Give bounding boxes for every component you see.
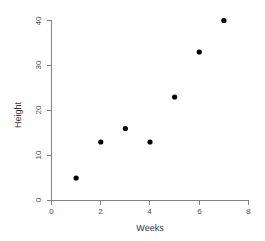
- x-axis-title: Weeks: [136, 223, 164, 233]
- data-point: [74, 175, 79, 180]
- data-point: [98, 139, 103, 144]
- y-tick-label-0: 0: [34, 197, 43, 202]
- x-tick-label-8: 8: [246, 207, 251, 216]
- data-point: [172, 94, 177, 99]
- x-tick-label-6: 6: [197, 207, 202, 216]
- y-tick-label-20: 20: [34, 105, 43, 114]
- x-axis: 0 2 4 6 8 Weeks: [49, 201, 251, 234]
- x-tick-label-4: 4: [147, 207, 152, 216]
- y-tick-label-40: 40: [34, 16, 43, 25]
- x-tick-label-2: 2: [98, 207, 103, 216]
- y-tick-label-30: 30: [34, 60, 43, 69]
- y-tick-label-10: 10: [34, 150, 43, 159]
- scatter-plot-figure: 0 10 20 30 40 Height 0 2 4 6 8 Weeks: [0, 0, 265, 241]
- data-point: [197, 49, 202, 54]
- y-axis-title: Height: [13, 101, 23, 128]
- data-point: [221, 18, 226, 23]
- x-tick-label-0: 0: [49, 207, 54, 216]
- y-axis: 0 10 20 30 40 Height: [13, 16, 52, 202]
- data-series: [74, 18, 227, 181]
- data-point: [147, 139, 152, 144]
- plot-canvas: 0 10 20 30 40 Height 0 2 4 6 8 Weeks: [0, 0, 265, 241]
- data-point: [123, 126, 128, 131]
